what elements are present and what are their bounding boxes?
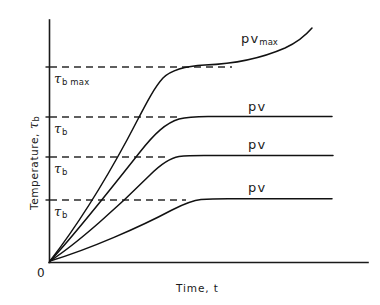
y-axis-title-symbol: τ [26,121,41,129]
tau-subscript: b [62,167,68,177]
temperature-time-figure: Temperature, τb τbmax τb τb τb pvmax pv … [0,0,380,305]
tau-qualifier: max [68,77,90,87]
tau-subscript: b [62,127,68,137]
curve-label-text: pv [248,180,266,195]
curve-label-pv-max: pvmax [241,32,278,46]
curve-label-pv-high: pv [248,100,266,113]
tau-subscript: b [62,210,68,220]
y-tick-label-tau-b-max: τbmax [54,72,90,86]
curve-label-pv-low: pv [248,181,266,194]
y-tick-label-tau-b-2: τb [54,162,68,176]
curve-pv-mid [50,155,333,261]
y-axis-title-subscript: b [32,116,41,122]
curve-label-subscript: max [259,37,278,47]
curve-label-pv-mid: pv [248,138,266,151]
tau-symbol: τ [54,204,62,219]
y-axis-title: Temperature, τb [26,116,41,210]
curve-pv-low [50,199,332,261]
y-tick-label-tau-b-1: τb [54,205,68,219]
tau-symbol: τ [54,121,62,136]
curve-label-text: pv [248,99,266,114]
curve-label-text: pv [241,31,259,46]
tau-subscript: b [62,77,68,87]
y-tick-label-tau-b-3: τb [54,122,68,136]
y-axis-title-text: Temperature, [28,133,40,210]
curve-label-text: pv [248,137,266,152]
curve-pv-max [50,28,312,261]
chart-canvas [0,0,380,305]
tau-symbol: τ [54,161,62,176]
tau-symbol: τ [54,71,62,86]
curve-pv-high [50,117,332,262]
x-axis-title: Time, t [176,282,219,294]
origin-label: 0 [37,266,45,280]
